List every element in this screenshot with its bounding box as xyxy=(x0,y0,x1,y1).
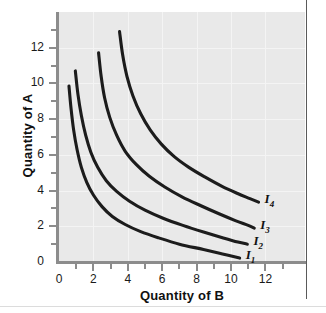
curve-label-subscript: 3 xyxy=(265,225,270,235)
x-tick-minor xyxy=(144,264,146,269)
x-tick-label: 2 xyxy=(81,272,105,286)
gridline-vertical xyxy=(93,12,94,262)
gridline-vertical xyxy=(162,12,163,262)
gridline-horizontal xyxy=(59,83,305,84)
curve-label-subscript: 2 xyxy=(258,241,263,251)
x-tick-minor xyxy=(247,264,249,269)
curve-label-i1: I1 xyxy=(246,247,256,265)
y-tick-minor xyxy=(51,100,56,102)
x-tick-minor xyxy=(178,264,180,269)
gridline-horizontal xyxy=(59,155,305,156)
gridline-vertical xyxy=(128,12,129,262)
gridline-horizontal xyxy=(59,119,305,120)
x-tick-major xyxy=(127,264,129,271)
y-tick-minor xyxy=(51,29,56,31)
page-rule-bottom xyxy=(0,306,326,307)
x-tick-minor xyxy=(75,264,77,269)
y-tick-minor xyxy=(51,172,56,174)
y-tick-minor xyxy=(51,136,56,138)
y-tick-label: 12 xyxy=(22,40,44,54)
x-tick-major xyxy=(230,264,232,271)
x-tick-label: 0 xyxy=(47,272,71,286)
y-axis-line xyxy=(56,12,59,263)
x-tick-minor xyxy=(110,264,112,269)
x-tick-major xyxy=(161,264,163,271)
curve-label-i3: I3 xyxy=(260,217,270,235)
y-tick-minor xyxy=(51,207,56,209)
curve-label-subscript: 1 xyxy=(251,254,256,264)
y-tick-minor xyxy=(51,243,56,245)
y-axis-title: Quantity of A xyxy=(20,56,35,216)
y-tick-major xyxy=(49,225,56,227)
gridline-horizontal xyxy=(59,48,305,49)
x-axis-title: Quantity of B xyxy=(59,288,305,303)
x-tick-label: 6 xyxy=(150,272,174,286)
gridline-vertical xyxy=(197,12,198,262)
curve-label-subscript: 4 xyxy=(270,199,275,209)
x-tick-label: 10 xyxy=(219,272,243,286)
y-tick-label: 0 xyxy=(22,254,44,268)
y-tick-minor xyxy=(51,65,56,67)
y-tick-major xyxy=(49,118,56,120)
y-tick-major xyxy=(49,154,56,156)
x-tick-label: 4 xyxy=(116,272,140,286)
y-tick-major xyxy=(49,82,56,84)
x-tick-label: 8 xyxy=(185,272,209,286)
y-tick-label: 2 xyxy=(22,218,44,232)
x-tick-major xyxy=(196,264,198,271)
x-tick-major xyxy=(92,264,94,271)
x-tick-minor xyxy=(282,264,284,269)
y-tick-major xyxy=(49,190,56,192)
x-tick-major xyxy=(264,264,266,271)
page-rule-right xyxy=(306,0,307,299)
x-tick-minor xyxy=(213,264,215,269)
figure-canvas: 024681012024681012 I4I3I2I1 Quantity of … xyxy=(0,0,326,313)
y-tick-major xyxy=(49,47,56,49)
curve-label-i4: I4 xyxy=(265,191,275,209)
gridline-vertical xyxy=(231,12,232,262)
x-tick-label: 12 xyxy=(253,272,277,286)
